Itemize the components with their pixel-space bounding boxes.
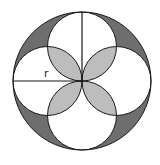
geometry-diagram: r [0, 0, 160, 165]
center-point [81, 80, 84, 83]
radius-label: r [44, 67, 49, 80]
